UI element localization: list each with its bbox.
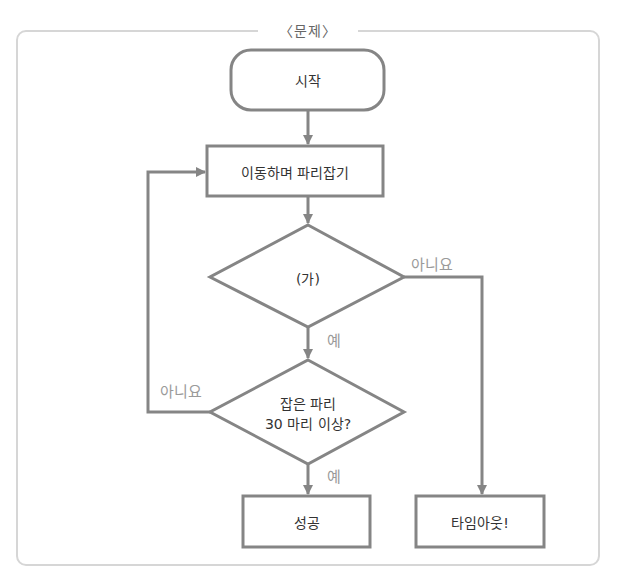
edge-label-b-yes: 예 [327,465,341,486]
decision-b-label-line2: 30 마리 이상? [248,413,368,433]
edge-label-a-yes: 예 [327,329,341,350]
success-label: 성공 [243,512,370,532]
edge-label-b-no: 아니요 [160,380,202,401]
decision-b-label-line1: 잡은 파리 [248,393,368,413]
edge-label-a-no: 아니요 [411,253,453,274]
start-label: 시작 [231,70,384,90]
arrow-decision-b-no-loop [148,172,210,412]
arrow-decision-a-no [404,277,482,494]
decision-a-label: (가) [258,268,358,288]
timeout-label: 타임아웃! [416,512,544,532]
process-label: 이동하며 파리잡기 [207,162,383,182]
